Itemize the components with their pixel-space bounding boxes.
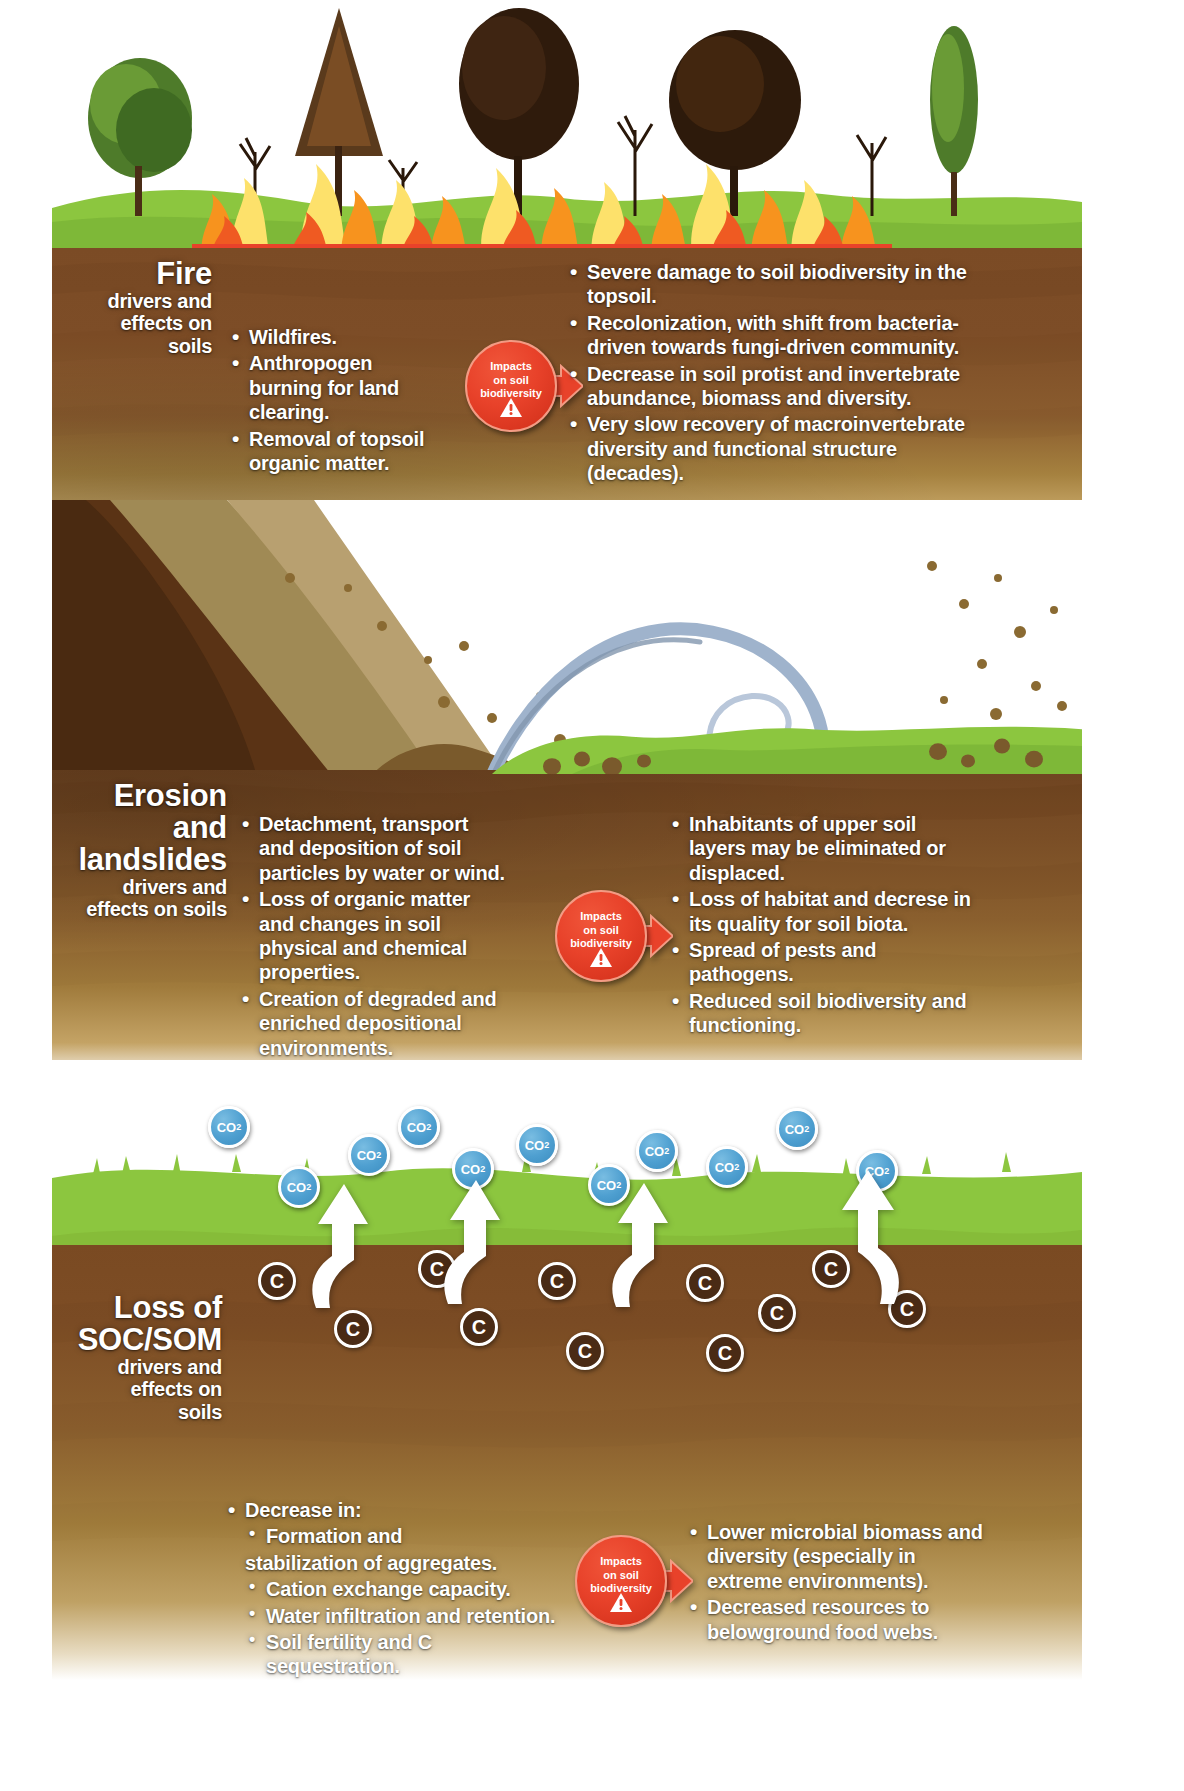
soc-title-main-1: Loss of — [62, 1292, 222, 1324]
soc-impacts-badge[interactable]: Impacts on soil biodiversity — [575, 1535, 667, 1627]
warning-triangle-icon — [590, 948, 612, 967]
fire-title-sub-2: effects on — [62, 312, 212, 334]
co2-chip: CO2 — [208, 1106, 250, 1148]
warning-triangle-icon — [610, 1593, 632, 1612]
carbon-chip: C — [758, 1294, 796, 1332]
carbon-flux-arrow — [300, 1178, 380, 1308]
fire-title-main: Fire — [62, 258, 212, 290]
erosion-impacts-badge[interactable]: Impacts on soil biodiversity — [555, 890, 647, 982]
soc-title-sub-2: effects on — [62, 1378, 222, 1400]
fire-driver-item: Wildfires. — [232, 325, 447, 349]
erosion-effect-item: Reduced soil biodiversity and functionin… — [672, 989, 972, 1038]
impacts-badge-disc: Impacts on soil biodiversity — [575, 1535, 667, 1627]
erosion-title-sub-1: drivers and — [62, 876, 227, 898]
carbon-chip: C — [334, 1310, 372, 1348]
co2-chip: CO2 — [348, 1134, 390, 1176]
badge-line-1: Impacts — [490, 360, 532, 373]
fire-effect-item: Very slow recovery of macroinvertebrate … — [570, 412, 970, 485]
fire-title-sub-1: drivers and — [62, 290, 212, 312]
erosion-driver-item: Creation of degraded and enriched deposi… — [242, 987, 507, 1060]
soc-driver-item: stabilization of aggregates. — [228, 1551, 558, 1575]
co2-chip: CO2 — [776, 1108, 818, 1150]
erosion-effects-list: Inhabitants of upper soil layers may be … — [672, 812, 972, 1040]
fire-illustration — [52, 0, 1082, 258]
soc-driver-item: Formation and — [228, 1524, 558, 1548]
soc-driver-item: Cation exchange capacity. — [228, 1577, 558, 1601]
erosion-effect-item: Loss of habitat and decrese in its quali… — [672, 887, 972, 936]
co2-chip: CO2 — [706, 1146, 748, 1188]
erosion-effect-item: Spread of pests and pathogens. — [672, 938, 972, 987]
soc-title-main-2: SOC/SOM — [62, 1324, 222, 1356]
carbon-chip: C — [686, 1264, 724, 1302]
erosion-title-main-2: landslides — [62, 844, 227, 876]
soc-title-sub-1: drivers and — [62, 1356, 222, 1378]
erosion-section-title: Erosion and landslides drivers and effec… — [62, 780, 227, 921]
fire-impacts-badge[interactable]: Impacts on soil biodiversity — [465, 340, 557, 432]
warning-triangle-icon — [500, 398, 522, 417]
fire-effect-item: Severe damage to soil biodiversity in th… — [570, 260, 970, 309]
erosion-title-main-1: Erosion and — [62, 780, 227, 844]
carbon-flux-arrow — [432, 1174, 512, 1304]
soc-drivers-list: Decrease in: Formation and stabilization… — [228, 1498, 558, 1681]
carbon-flux-arrow — [824, 1164, 910, 1304]
erosion-driver-item: Loss of organic matter and changes in so… — [242, 887, 507, 985]
fire-effects-list: Severe damage to soil biodiversity in th… — [570, 260, 970, 488]
fire-driver-item: Removal of topsoil organic matter. — [232, 427, 447, 476]
fire-title-sub-3: soils — [62, 335, 212, 357]
badge-line-2: on soil — [603, 1569, 638, 1582]
fire-section-title: Fire drivers and effects on soils — [62, 258, 212, 357]
soc-effect-item: Lower microbial biomass and diversity (e… — [690, 1520, 990, 1593]
erosion-effect-item: Inhabitants of upper soil layers may be … — [672, 812, 972, 885]
co2-chip: CO2 — [516, 1124, 558, 1166]
impacts-badge-disc: Impacts on soil biodiversity — [555, 890, 647, 982]
carbon-chip: C — [706, 1334, 744, 1372]
soc-title-sub-3: soils — [62, 1401, 222, 1423]
soc-driver-item: Soil fertility and C sequestration. — [228, 1630, 558, 1679]
fire-driver-item: Anthropogen burning for land clearing. — [232, 351, 447, 424]
erosion-title-sub-2: effects on soils — [62, 898, 227, 920]
soc-effects-list: Lower microbial biomass and diversity (e… — [690, 1520, 990, 1646]
carbon-chip: C — [566, 1332, 604, 1370]
carbon-chip: C — [460, 1308, 498, 1346]
fire-effect-item: Recolonization, with shift from bacteria… — [570, 311, 970, 360]
badge-line-1: Impacts — [600, 1555, 642, 1568]
badge-line-2: on soil — [583, 924, 618, 937]
soc-driver-item: Water infiltration and retention. — [228, 1604, 558, 1628]
carbon-chip: C — [258, 1262, 296, 1300]
soc-driver-item: Decrease in: — [228, 1498, 558, 1522]
carbon-flux-arrow — [600, 1176, 680, 1308]
carbon-chip: C — [538, 1262, 576, 1300]
co2-chip: CO2 — [398, 1106, 440, 1148]
co2-chip: CO2 — [636, 1130, 678, 1172]
impacts-badge-disc: Impacts on soil biodiversity — [465, 340, 557, 432]
badge-line-2: on soil — [493, 374, 528, 387]
soc-section-title: Loss of SOC/SOM drivers and effects on s… — [62, 1292, 222, 1423]
soc-effect-item: Decreased resources to belowground food … — [690, 1595, 990, 1644]
badge-line-1: Impacts — [580, 910, 622, 923]
wildfire-flames — [52, 98, 1082, 258]
erosion-driver-item: Detachment, transport and deposition of … — [242, 812, 507, 885]
erosion-grass-strip — [52, 718, 1082, 774]
fire-drivers-list: Wildfires. Anthropogen burning for land … — [232, 325, 447, 477]
fire-effect-item: Decrease in soil protist and invertebrat… — [570, 362, 970, 411]
erosion-drivers-list: Detachment, transport and deposition of … — [242, 812, 507, 1062]
